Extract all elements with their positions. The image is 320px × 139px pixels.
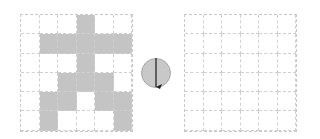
grid-cell xyxy=(40,15,59,34)
grid-cell[interactable] xyxy=(241,92,260,111)
rotate-icon xyxy=(140,57,172,91)
grid-cell xyxy=(40,111,59,130)
grid-cell[interactable] xyxy=(259,73,278,92)
grid-cell xyxy=(77,111,96,130)
grid-cell[interactable] xyxy=(259,15,278,34)
grid-cell[interactable] xyxy=(259,54,278,73)
grid-cell[interactable] xyxy=(222,73,241,92)
grid-cell xyxy=(21,111,40,130)
grid-cell[interactable] xyxy=(241,73,260,92)
grid-cell[interactable] xyxy=(259,92,278,111)
grid-cell[interactable] xyxy=(204,92,223,111)
grid-cell xyxy=(95,15,114,34)
grid-cell[interactable] xyxy=(222,92,241,111)
grid-cell xyxy=(58,111,77,130)
grid-cell[interactable] xyxy=(278,111,297,130)
grid-cell xyxy=(40,73,59,92)
grid-cell xyxy=(114,92,133,111)
grid-cell[interactable] xyxy=(278,15,297,34)
grid-cell[interactable] xyxy=(259,111,278,130)
grid-cell[interactable] xyxy=(222,111,241,130)
grid-cell[interactable] xyxy=(204,111,223,130)
grid-cell[interactable] xyxy=(278,34,297,53)
grid-cell xyxy=(40,54,59,73)
grid-cell xyxy=(77,73,96,92)
grid-cell[interactable] xyxy=(241,54,260,73)
grid-cell xyxy=(95,73,114,92)
grid-cell xyxy=(95,92,114,111)
grid-cell xyxy=(21,34,40,53)
grid-cell[interactable] xyxy=(222,34,241,53)
grid-cell[interactable] xyxy=(278,92,297,111)
grid-cell[interactable] xyxy=(185,15,204,34)
source-grid xyxy=(20,14,133,132)
grid-cell xyxy=(77,15,96,34)
grid-cell xyxy=(21,92,40,111)
grid-cell xyxy=(95,54,114,73)
grid-cell[interactable] xyxy=(185,111,204,130)
grid-cell xyxy=(58,73,77,92)
grid-cell xyxy=(58,34,77,53)
grid-cell xyxy=(77,54,96,73)
grid-cell[interactable] xyxy=(222,15,241,34)
grid-cell xyxy=(77,34,96,53)
grid-cell[interactable] xyxy=(185,92,204,111)
grid-cell[interactable] xyxy=(185,34,204,53)
grid-cell xyxy=(21,54,40,73)
grid-cell[interactable] xyxy=(278,54,297,73)
grid-cell[interactable] xyxy=(278,73,297,92)
grid-cell[interactable] xyxy=(259,34,278,53)
grid-cell[interactable] xyxy=(241,111,260,130)
grid-cell xyxy=(114,15,133,34)
grid-cell xyxy=(58,15,77,34)
target-grid[interactable] xyxy=(184,14,297,132)
grid-cell xyxy=(21,15,40,34)
grid-cell[interactable] xyxy=(204,34,223,53)
grid-cell xyxy=(95,34,114,53)
grid-cell xyxy=(114,54,133,73)
grid-cell[interactable] xyxy=(241,15,260,34)
grid-cell[interactable] xyxy=(204,15,223,34)
grid-cell xyxy=(58,92,77,111)
grid-cell[interactable] xyxy=(222,54,241,73)
grid-cell[interactable] xyxy=(185,54,204,73)
grid-cell xyxy=(40,34,59,53)
grid-cell[interactable] xyxy=(185,73,204,92)
grid-cell[interactable] xyxy=(241,34,260,53)
grid-cell xyxy=(114,73,133,92)
grid-cell xyxy=(114,111,133,130)
grid-cell xyxy=(40,92,59,111)
grid-cell xyxy=(95,111,114,130)
grid-cell xyxy=(21,73,40,92)
grid-cell[interactable] xyxy=(204,54,223,73)
grid-cell xyxy=(58,54,77,73)
grid-cell[interactable] xyxy=(204,73,223,92)
grid-cell xyxy=(77,92,96,111)
grid-cell xyxy=(114,34,133,53)
